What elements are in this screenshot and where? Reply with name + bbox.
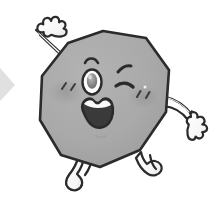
highlight-dot [144, 86, 147, 89]
open-eye-left [83, 70, 102, 95]
blush-left [46, 77, 86, 107]
illustration-canvas: Winking polygon cartoon character [0, 0, 222, 209]
character-illustration [0, 0, 222, 209]
